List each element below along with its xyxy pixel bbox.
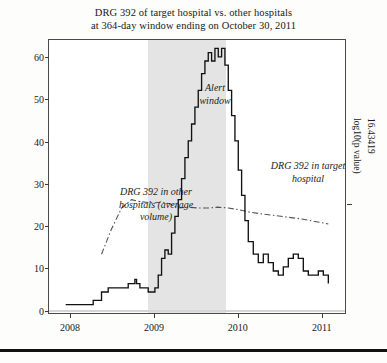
title-line-2: at 364-day window ending on October 30, … xyxy=(0,19,387,32)
plot-area: Alert window DRG 392 in other hospitals … xyxy=(48,39,346,314)
y-tick-mark xyxy=(45,57,49,58)
x-tick-mark xyxy=(322,313,323,318)
figure-title: DRG 392 of target hospital vs. other hos… xyxy=(0,6,387,32)
y-tick-mark xyxy=(45,99,49,100)
x-tick-mark xyxy=(154,313,155,318)
y-tick-mark xyxy=(45,142,49,143)
right-axis-label: log10(p value) xyxy=(352,118,362,174)
title-line-1: DRG 392 of target hospital vs. other hos… xyxy=(95,7,292,18)
x-tick-mark xyxy=(238,313,239,318)
y-tick-mark xyxy=(45,184,49,185)
annotation-alert-window: Alert window xyxy=(187,82,243,107)
figure-container: DRG 392 of target hospital vs. other hos… xyxy=(0,0,387,363)
x-tick-mark xyxy=(70,313,71,318)
right-axis-tick xyxy=(347,204,352,205)
y-tick-mark xyxy=(45,268,49,269)
x-tick-label: 2009 xyxy=(144,322,164,333)
y-tick-mark xyxy=(45,311,49,312)
x-tick-label: 2008 xyxy=(60,322,80,333)
page-rule xyxy=(0,349,387,352)
y-tick-mark xyxy=(45,226,49,227)
annotation-target-hospital: DRG 392 in target hospital xyxy=(255,160,361,185)
x-tick-label: 2011 xyxy=(312,322,332,333)
right-axis-value: 16.43419 xyxy=(366,118,376,154)
annotation-other-hospitals: DRG 392 in other hospitals (average volu… xyxy=(101,186,211,224)
x-tick-label: 2010 xyxy=(228,322,248,333)
